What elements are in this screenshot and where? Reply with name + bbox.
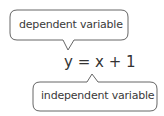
independent-variable-label: independent variable xyxy=(41,89,154,102)
dependent-variable-label: dependent variable xyxy=(19,18,123,31)
equation: y = x + 1 xyxy=(64,53,136,71)
